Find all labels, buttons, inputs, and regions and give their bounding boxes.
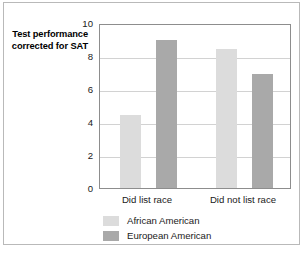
y-tick-label: 8 <box>63 51 93 62</box>
plot-area <box>99 24 291 189</box>
bars-layer <box>100 25 290 188</box>
bar <box>216 49 237 188</box>
y-tick-label: 10 <box>63 18 93 29</box>
bar <box>156 40 177 189</box>
chart-legend: African AmericanEuropean American <box>103 214 211 244</box>
x-tick-label: Did not list race <box>188 194 298 205</box>
bar <box>252 74 273 188</box>
legend-swatch <box>103 231 119 241</box>
y-tick-label: 6 <box>63 84 93 95</box>
legend-swatch <box>103 216 119 226</box>
legend-item: European American <box>103 229 211 242</box>
x-tick-label: Did list race <box>92 194 202 205</box>
figure-card: Test performance corrected for SAT 02468… <box>3 2 300 245</box>
y-axis-title: Test performance corrected for SAT <box>6 29 88 52</box>
bar <box>120 115 141 188</box>
y-tick-label: 0 <box>63 183 93 194</box>
legend-item: African American <box>103 214 211 227</box>
legend-label: European American <box>127 230 211 241</box>
legend-label: African American <box>127 215 200 226</box>
y-tick-label: 4 <box>63 117 93 128</box>
y-tick-label: 2 <box>63 150 93 161</box>
